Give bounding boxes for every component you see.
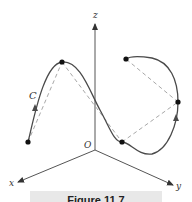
point-p1 [59,59,64,64]
space-curve-diagram: Figure 11.7 z x y O C [0,0,192,202]
curve-c [28,57,178,155]
x-axis-label: x [9,178,14,188]
point-p4 [123,56,128,61]
figure-caption: Figure 11.7 [67,194,124,202]
y-axis-label: y [175,181,182,191]
chord-1 [28,62,62,142]
origin-label: O [84,140,92,150]
partition-points [25,56,180,144]
chord-4 [126,59,178,102]
axes [18,24,173,185]
x-axis [18,150,95,182]
curve-label: C [29,90,37,101]
chord-3 [122,102,178,142]
z-axis-label: z [92,10,98,20]
y-axis [95,150,173,185]
orientation-arrow-2 [173,114,179,121]
point-p0 [25,139,30,144]
chord-2 [62,62,122,142]
point-p3 [175,99,180,104]
point-p2 [119,139,124,144]
